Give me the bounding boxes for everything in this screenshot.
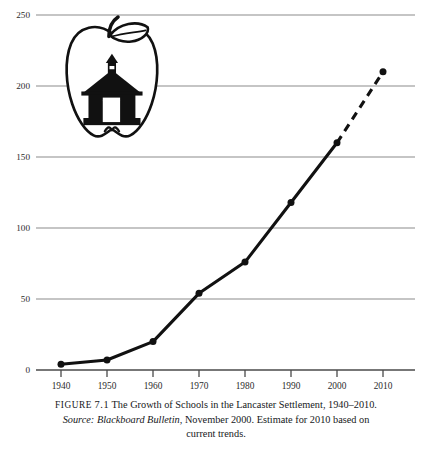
source-label: Source:: [63, 414, 95, 425]
figure-label: FIGURE: [55, 400, 92, 410]
y-tick-label-200: 200: [16, 81, 30, 91]
data-point-1990: [288, 199, 295, 206]
schoolhouse-door: [103, 101, 120, 122]
figure-caption: FIGURE 7.1 The Growth of Schools in the …: [16, 398, 416, 442]
source-rest-text: November 2000. Estimate for 2010 based o…: [185, 414, 369, 425]
x-tick-label-1970: 1970: [190, 381, 209, 391]
data-point-1940: [58, 361, 65, 368]
figure-title-text: The Growth of Schools in the Lancaster S…: [112, 399, 377, 410]
y-tick-label-250: 250: [16, 10, 30, 20]
x-tick-label-2000: 2000: [328, 381, 347, 391]
data-point-2010: [380, 68, 387, 75]
x-tick-label-group: 19401950196019701980199020002010: [52, 381, 393, 391]
y-tick-label-0: 0: [25, 365, 30, 375]
y-tick-label-50: 50: [21, 294, 31, 304]
x-tick-label-1950: 1950: [98, 381, 117, 391]
chart-plot-area: 050100150200250 194019501960197019801990…: [0, 0, 432, 395]
data-point-1970: [196, 290, 203, 297]
data-point-1960: [150, 338, 157, 345]
y-tick-label-group: 050100150200250: [16, 10, 30, 375]
line-chart-svg: 050100150200250 194019501960197019801990…: [0, 0, 432, 395]
apple-with-schoolhouse-logo: [67, 17, 158, 136]
source-title: Blackboard Bulletin,: [97, 414, 182, 425]
caption-line-source: Source: Blackboard Bulletin, November 20…: [16, 413, 416, 428]
data-point-1950: [104, 357, 111, 364]
figure-container: 050100150200250 194019501960197019801990…: [0, 0, 432, 457]
data-point-2000: [334, 139, 341, 146]
figure-number: 7.1: [95, 399, 110, 410]
x-tick-group: [61, 370, 383, 377]
x-tick-label-1990: 1990: [282, 381, 301, 391]
x-tick-label-2010: 2010: [374, 381, 393, 391]
schoolhouse-bell-opening: [109, 66, 114, 69]
schoolhouse-transom-window: [103, 98, 120, 101]
y-tick-label-150: 150: [16, 152, 30, 162]
caption-line-title: FIGURE 7.1 The Growth of Schools in the …: [16, 398, 416, 413]
caption-line-tail: current trends.: [16, 427, 416, 442]
series-line-dashed-estimate: [337, 72, 383, 143]
data-point-1980: [242, 259, 249, 266]
x-tick-label-1960: 1960: [144, 381, 163, 391]
y-tick-label-100: 100: [16, 223, 30, 233]
series-line-solid: [61, 143, 337, 365]
x-tick-label-1940: 1940: [52, 381, 71, 391]
x-tick-label-1980: 1980: [236, 381, 255, 391]
